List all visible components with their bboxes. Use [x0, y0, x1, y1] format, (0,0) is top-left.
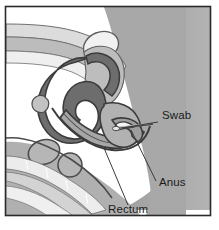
anatomy-diagram-svg: Swab Anus Rectum [0, 0, 219, 230]
label-rectum: Rectum [108, 203, 148, 215]
colon-side-pouch [32, 95, 49, 112]
swab-tip [113, 126, 120, 130]
anatomy-figure: Swab Anus Rectum [0, 0, 219, 230]
label-anus: Anus [159, 176, 186, 188]
label-swab: Swab [162, 109, 191, 121]
